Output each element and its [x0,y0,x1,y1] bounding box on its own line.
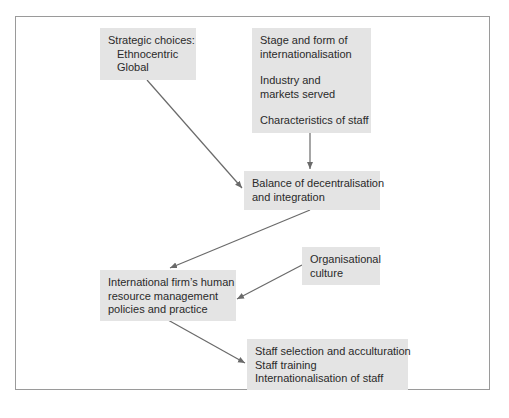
node-strategic-choices: Strategic choices: Ethnocentric Global [100,28,196,80]
node-balance: Balance of decentralisation and integrat… [244,171,380,210]
contingency-stage-line2: internationalisation [260,48,363,62]
arrow-balance-to-hrm [170,210,310,268]
outcome-training: Staff training [255,359,400,373]
strategic-choice-ethnocentric: Ethnocentric [108,48,188,62]
node-organisational-culture: Organisational culture [302,247,380,285]
contingency-staff-characteristics: Characteristics of staff [260,114,363,128]
arrow-hrm-to-outcomes [168,320,245,363]
arrow-culture-to-hrm [237,265,302,299]
node-hrm-policies: International firm’s human resource mana… [100,270,236,321]
hrm-line3: policies and practice [108,303,228,317]
arrow-strategic-to-balance [147,80,242,188]
contingency-stage-line1: Stage and form of [260,34,363,48]
outcome-internationalisation: Internationalisation of staff [255,372,400,386]
hrm-line2: resource management [108,290,228,304]
node-outcomes: Staff selection and acculturation Staff … [247,339,408,390]
node-contingencies: Stage and form of internationalisation I… [252,28,371,133]
strategic-choice-global: Global [108,61,188,75]
culture-line1: Organisational [310,253,372,267]
balance-line1: Balance of decentralisation [252,177,372,191]
hrm-line1: International firm’s human [108,276,228,290]
cropped-caption [100,409,420,418]
balance-line2: and integration [252,191,372,205]
contingency-industry-line2: markets served [260,88,363,102]
strategic-choices-title: Strategic choices: [108,34,188,48]
contingency-industry-line1: Industry and [260,74,363,88]
culture-line2: culture [310,267,372,281]
outcome-selection: Staff selection and acculturation [255,345,400,359]
